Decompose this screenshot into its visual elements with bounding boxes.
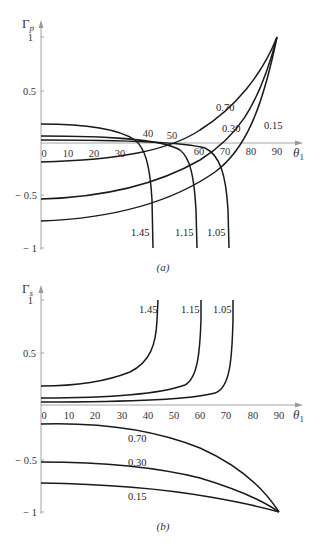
- xtick: 0: [41, 410, 46, 421]
- ytick-neg-1: − 1: [23, 243, 37, 254]
- ytick-neg-1: − 1: [23, 507, 37, 518]
- ytick-1: 1: [28, 295, 33, 306]
- x-axis-label-b: θ1: [293, 407, 304, 424]
- xtick: 70: [220, 146, 231, 157]
- curve-a-0.30: [41, 37, 277, 199]
- label-1.05: 1.05: [207, 227, 225, 238]
- label-0.70: 0.70: [216, 102, 234, 113]
- caption-a: (a): [157, 261, 170, 274]
- curve-b-0.15: [41, 483, 279, 512]
- xtick: 90: [272, 146, 283, 157]
- xtick: 30: [115, 148, 126, 159]
- xtick: 0: [41, 148, 46, 159]
- curve-a-0.15: [41, 37, 277, 221]
- panel-a: Γp 1 0.5 − 0.5 − 1 0 10 20 30 40 50 60 7…: [15, 16, 304, 274]
- curve-b-0.70: [41, 424, 279, 512]
- curve-b-1.05: [41, 300, 233, 402]
- label-1.45: 1.45: [131, 227, 149, 238]
- ytick-neg-0.5: − 0.5: [15, 190, 37, 201]
- xtick: 20: [89, 148, 100, 159]
- label-0.70: 0.70: [128, 433, 146, 444]
- label-0.15: 0.15: [128, 491, 146, 502]
- xtick: 30: [117, 410, 128, 421]
- xtick: 80: [246, 146, 257, 157]
- xtick: 90: [274, 410, 285, 421]
- label-1.15: 1.15: [175, 227, 193, 238]
- panel-b: Γs 1 0.5 − 0.5 − 1 0 10 20 30 40 50 60 7…: [15, 281, 304, 533]
- label-1.45: 1.45: [139, 304, 157, 315]
- xtick: 60: [195, 410, 206, 421]
- y-axis-arrow-icon: [39, 20, 44, 28]
- curve-b-0.30: [41, 462, 279, 512]
- y-axis-arrow-icon: [39, 285, 44, 293]
- label-1.15: 1.15: [181, 304, 199, 315]
- xtick: 10: [63, 148, 74, 159]
- curve-b-1.15: [41, 300, 201, 398]
- xtick: 50: [167, 130, 178, 141]
- xtick: 20: [90, 410, 101, 421]
- xtick: 40: [143, 128, 154, 139]
- ytick-1: 1: [28, 32, 33, 43]
- x-axis-label-a: θ1: [293, 145, 304, 162]
- label-0.30: 0.30: [222, 123, 240, 134]
- y-axis-label-a: Γp: [22, 16, 35, 33]
- label-0.15: 0.15: [264, 120, 282, 131]
- ytick-0.5: 0.5: [23, 86, 36, 97]
- xtick: 80: [248, 410, 259, 421]
- label-1.05: 1.05: [213, 304, 231, 315]
- label-0.30: 0.30: [128, 457, 146, 468]
- xtick: 40: [143, 410, 154, 421]
- xtick: 50: [169, 410, 180, 421]
- ytick-0.5: 0.5: [23, 348, 36, 359]
- figure: Γp 1 0.5 − 0.5 − 1 0 10 20 30 40 50 60 7…: [0, 0, 324, 551]
- xtick: 70: [221, 410, 232, 421]
- ytick-neg-0.5: − 0.5: [15, 455, 37, 466]
- xtick: 10: [64, 410, 75, 421]
- caption-b: (b): [157, 520, 170, 533]
